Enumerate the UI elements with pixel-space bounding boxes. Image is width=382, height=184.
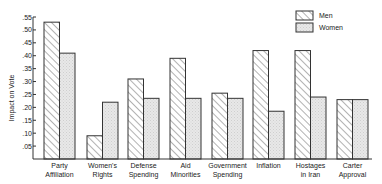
x-tick-label: Affiliation: [45, 171, 73, 178]
x-tick-label: Government: [208, 162, 247, 169]
x-tick-label: Aid: [180, 162, 190, 169]
y-tick-label: .25: [22, 91, 32, 98]
x-tick-label: Party: [51, 162, 68, 170]
bar-women: [353, 100, 369, 159]
x-tick-label: Minorities: [171, 171, 201, 178]
bar-men: [44, 22, 60, 159]
y-tick-label: .10: [22, 130, 32, 137]
legend-swatch-men: [296, 11, 313, 20]
legend-label-women: Women: [319, 24, 343, 31]
bar-women: [186, 98, 202, 159]
bar-men: [253, 51, 269, 159]
bar-men: [128, 79, 144, 159]
y-tick-label: .20: [22, 104, 32, 111]
bar-men: [87, 136, 103, 159]
bar-chart: .05.10.15.20.25.30.35.40.45.50.55Impact …: [0, 0, 382, 184]
x-tick-label: Defense: [130, 162, 156, 169]
y-tick-label: .15: [22, 117, 32, 124]
x-tick-label: Women's: [88, 162, 117, 169]
x-tick-label: Carter: [343, 162, 363, 169]
x-tick-label: Approval: [339, 171, 367, 179]
bar-women: [103, 102, 119, 159]
bar-men: [212, 93, 228, 159]
x-tick-label: Spending: [213, 171, 243, 179]
bar-men: [170, 58, 186, 159]
y-axis: .05.10.15.20.25.30.35.40.45.50.55Impact …: [8, 14, 36, 160]
bar-women: [311, 97, 327, 159]
x-tick-label: Spending: [129, 171, 159, 179]
bar-women: [269, 111, 285, 159]
bars: [44, 22, 368, 159]
legend-swatch-women: [296, 23, 313, 32]
x-tick-label: Hostages: [296, 162, 326, 170]
y-tick-label: .50: [22, 26, 32, 33]
bar-women: [144, 98, 160, 159]
y-tick-label: .40: [22, 52, 32, 59]
y-tick-label: .05: [22, 143, 32, 150]
y-axis-label: Impact on Vote: [8, 75, 16, 122]
x-tick-label: in Iran: [301, 171, 321, 178]
legend-label-men: Men: [319, 12, 333, 19]
x-axis: PartyAffiliationWomen'sRightsDefenseSpen…: [33, 159, 372, 179]
y-tick-label: .30: [22, 78, 32, 85]
y-tick-label: .45: [22, 39, 32, 46]
y-tick-label: .55: [22, 14, 32, 21]
x-tick-label: Inflation: [256, 162, 281, 169]
y-tick-label: .35: [22, 65, 32, 72]
bar-men: [295, 51, 311, 159]
bar-women: [228, 98, 244, 159]
bar-men: [337, 100, 353, 159]
legend: MenWomen: [296, 11, 343, 32]
x-tick-label: Rights: [93, 171, 113, 179]
bar-women: [60, 53, 76, 159]
